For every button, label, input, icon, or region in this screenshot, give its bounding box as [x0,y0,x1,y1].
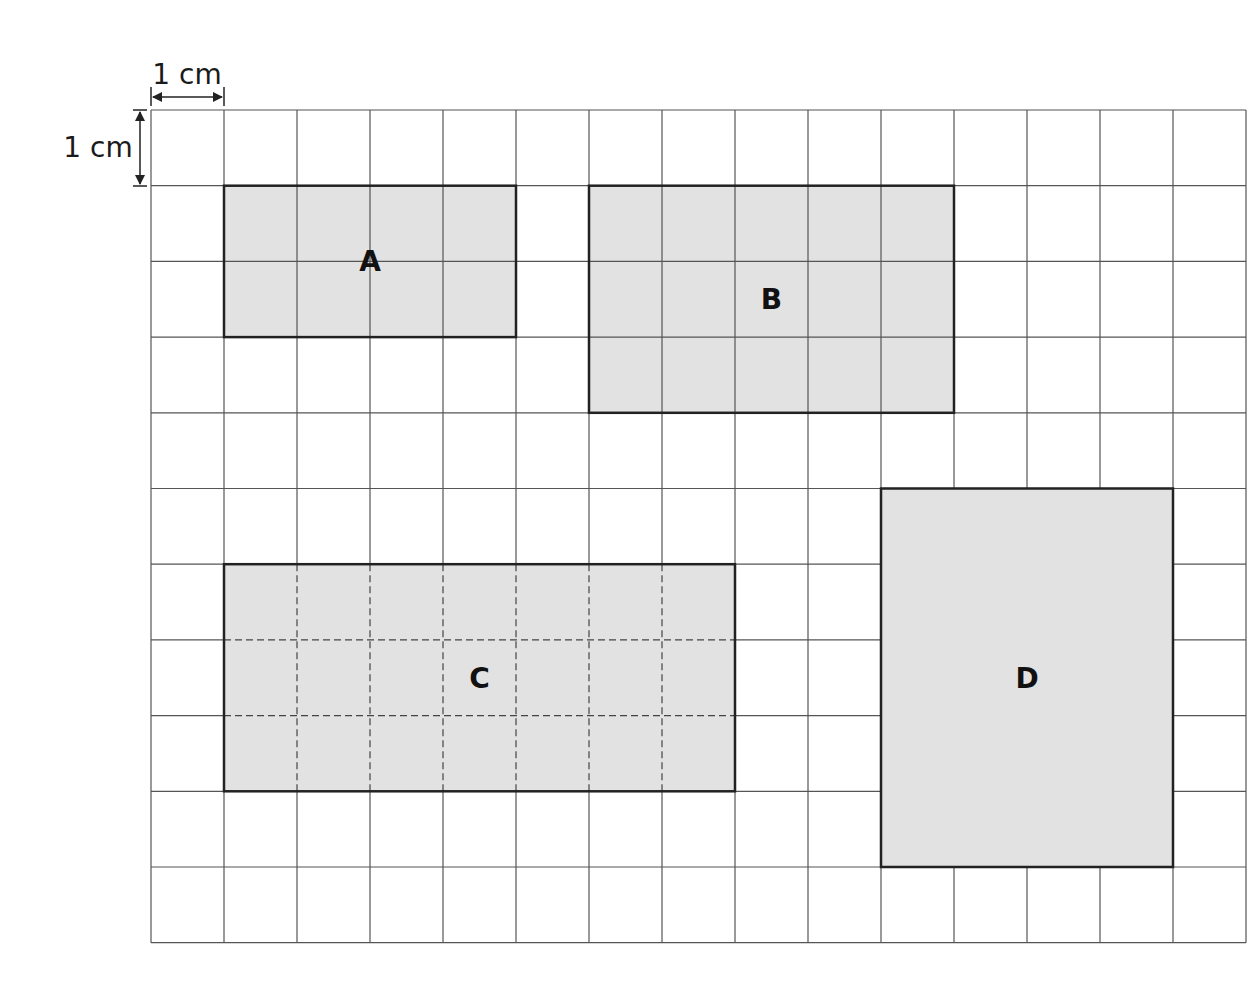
arrow-left-icon [152,92,162,102]
arrow-up-icon [135,111,145,121]
rectangle-b: B [589,186,954,413]
scale-markers: 1 cm 1 cm [63,58,224,186]
rectangle-label: B [761,283,782,316]
rectangle-c: C [224,564,735,791]
arrow-down-icon [135,175,145,185]
rectangle-label: A [359,245,381,278]
shapes: ABCD [224,186,1173,867]
rectangle-label: D [1015,662,1038,695]
vertical-scale-label: 1 cm [63,131,132,164]
vertical-scale-marker: 1 cm [63,110,147,186]
horizontal-scale-label: 1 cm [152,58,221,91]
arrow-right-icon [213,92,223,102]
horizontal-scale-marker: 1 cm [151,58,224,106]
rectangle-a: A [224,186,516,337]
grid-diagram: ABCD 1 cm 1 cm [0,0,1255,987]
rectangle-d: D [881,489,1173,868]
rectangle-label: C [469,662,490,695]
